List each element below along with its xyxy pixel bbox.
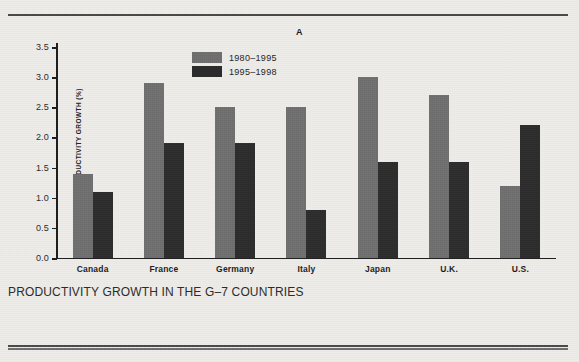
legend-swatch [192, 66, 222, 77]
top-divider-rule [8, 14, 568, 16]
bar [144, 83, 164, 258]
bar [429, 95, 449, 258]
x-axis-label: U.K. [440, 264, 458, 274]
legend-label: 1980–1995 [229, 53, 277, 63]
y-tick-label: 0.5 [36, 223, 49, 233]
bar [500, 186, 520, 258]
x-axis-label: Japan [365, 264, 391, 274]
x-axis-label: Canada [77, 264, 109, 274]
bar-group: Japan [342, 47, 413, 258]
bottom-divider-rule-secondary [8, 348, 568, 350]
x-axis-label: Italy [297, 264, 315, 274]
y-tick-label: 0.0 [36, 253, 49, 263]
chart-legend: 1980–19951995–1998 [192, 52, 277, 77]
y-tick-mark [52, 258, 57, 260]
y-tick-label: 3.5 [36, 42, 49, 52]
bar [215, 107, 235, 258]
y-tick-label: 1.5 [36, 163, 49, 173]
bar [235, 143, 255, 258]
x-axis-label: U.S. [512, 264, 529, 274]
bar-group: France [128, 47, 199, 258]
x-axis-label: France [149, 264, 178, 274]
bar [73, 174, 93, 258]
bar-group: Germany [200, 47, 271, 258]
y-tick-label: 2.0 [36, 132, 49, 142]
bottom-divider-rule [8, 345, 568, 347]
bar [358, 77, 378, 258]
bar [164, 143, 184, 258]
bar [520, 125, 540, 258]
legend-entry: 1995–1998 [192, 66, 277, 77]
legend-swatch [192, 52, 222, 63]
bar-group: Canada [57, 47, 128, 258]
figure-caption: PRODUCTIVITY GROWTH IN THE G–7 COUNTRIES [8, 285, 304, 299]
bar [449, 162, 469, 258]
bar [93, 192, 113, 258]
bar-group: U.S. [485, 47, 556, 258]
bar-group: U.K. [413, 47, 484, 258]
y-tick-label: 2.5 [36, 102, 49, 112]
bar [286, 107, 306, 258]
legend-entry: 1980–1995 [192, 52, 277, 63]
y-tick-label: 3.0 [36, 72, 49, 82]
y-tick-label: 1.0 [36, 193, 49, 203]
bar-chart: LABOR PRODUCTIVITY GROWTH (%) 0.00.51.01… [57, 47, 556, 258]
bar [306, 210, 326, 258]
bar-groups: CanadaFranceGermanyItalyJapanU.K.U.S. [57, 47, 556, 258]
panel-letter: A [296, 27, 303, 37]
bar [378, 162, 398, 258]
bar-group: Italy [271, 47, 342, 258]
legend-label: 1995–1998 [229, 67, 277, 77]
x-axis-label: Germany [216, 264, 254, 274]
